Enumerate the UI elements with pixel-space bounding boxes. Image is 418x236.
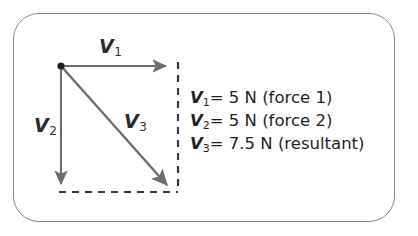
vector-label-v3-subscript: 3 — [139, 120, 147, 134]
vector-label-v3: V3 — [124, 112, 147, 133]
vector-label-v2-subscript: 2 — [49, 124, 57, 138]
vector-label-v3-symbol: V — [124, 110, 139, 132]
legend-row-symbol: V — [190, 88, 203, 107]
legend-row-subscript: 3 — [203, 142, 210, 155]
legend-row-subscript: 1 — [203, 96, 210, 109]
legend-row: V2= 5 N (force 2) — [190, 109, 390, 132]
legend-row: V3= 7.5 N (resultant) — [190, 132, 390, 155]
vector-label-v2-symbol: V — [34, 114, 49, 136]
legend-row-text: = 5 N (force 2) — [210, 111, 333, 130]
origin-dot — [57, 62, 64, 69]
legend-row: V1= 5 N (force 1) — [190, 86, 390, 109]
vector-diagram-figure: V1 V2 V3 V1= 5 N (force 1) V2= 5 N (forc… — [0, 0, 418, 236]
vector-label-v1-subscript: 1 — [114, 45, 122, 59]
legend: V1= 5 N (force 1) V2= 5 N (force 2) V3= … — [190, 86, 390, 155]
legend-row-symbol: V — [190, 134, 203, 153]
legend-row-text: = 7.5 N (resultant) — [210, 134, 365, 153]
legend-row-symbol: V — [190, 111, 203, 130]
vector-label-v1-symbol: V — [99, 35, 114, 57]
legend-row-subscript: 2 — [203, 119, 210, 132]
vector-label-v2: V2 — [34, 116, 57, 137]
vector-label-v1: V1 — [99, 37, 122, 58]
vector-v3-arrow — [61, 66, 167, 185]
legend-row-text: = 5 N (force 1) — [210, 88, 333, 107]
